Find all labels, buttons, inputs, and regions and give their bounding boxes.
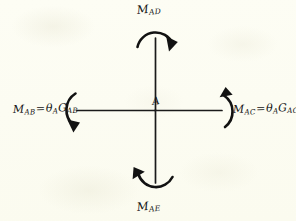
moment-arc-AC	[220, 87, 233, 127]
theta-symbol-AB: θ	[46, 102, 53, 115]
moment-subscript-AD: AD	[149, 7, 162, 17]
member-lines	[77, 38, 222, 183]
moment-arc-AB-arrowhead	[67, 120, 80, 133]
moment-subscript-AE: AE	[149, 204, 161, 214]
moment-arc-AD	[138, 32, 178, 51]
moment-arc-AC-arrowhead	[220, 87, 233, 97]
stiffness-subscript-AB: AB	[67, 106, 78, 115]
theta-subscript-AB: A	[53, 106, 59, 115]
moment-symbol-AE: M	[136, 199, 149, 214]
theta-symbol-AC: θ	[266, 102, 273, 115]
stiffness-subscript-AC: AC	[287, 106, 296, 115]
moment-arc-AD-arrowhead	[166, 36, 178, 51]
moment-arc-AE	[133, 167, 173, 187]
stiffness-symbol-AB: G	[58, 101, 67, 114]
moment-label-AE: MAE	[136, 200, 160, 214]
moment-symbol-AB: M	[13, 103, 25, 116]
moment-arc-AC-curve	[224, 96, 233, 128]
equals-sign-AC: =	[255, 102, 266, 115]
moment-label-AC: MAC=θAGAC	[233, 102, 296, 115]
equals-sign-AB: =	[35, 102, 46, 115]
joint-label-A: A	[151, 95, 160, 106]
moment-subscript-AC: AC	[244, 107, 255, 116]
moment-label-AD: MAD	[136, 3, 161, 17]
stiffness-symbol-AC: G	[278, 101, 287, 114]
moment-symbol-AC: M	[233, 103, 245, 116]
diagram-canvas: MAD MAE MAB=θAGAB MAC=θAGAC A	[0, 0, 296, 221]
moment-label-AB: MAB=θAGAB	[13, 102, 78, 115]
theta-subscript-AC: A	[273, 106, 279, 115]
moment-symbol-AD: M	[136, 2, 149, 17]
moment-subscript-AB: AB	[24, 107, 35, 116]
